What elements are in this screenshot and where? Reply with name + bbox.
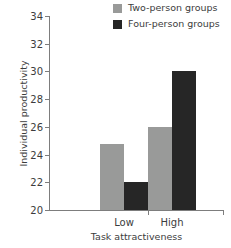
y-tick: 22 <box>49 182 50 183</box>
bar <box>100 144 124 211</box>
y-tick-mark <box>45 127 49 128</box>
legend-item-two-person: Two-person groups <box>113 1 231 15</box>
y-tick-label: 28 <box>30 94 43 105</box>
y-tick-mark <box>45 155 49 156</box>
y-tick-label: 34 <box>30 11 43 22</box>
y-axis-title: Individual productivity <box>18 44 29 184</box>
y-tick: 26 <box>49 127 50 128</box>
x-axis-title: Task attractiveness <box>49 231 224 242</box>
y-tick-label: 20 <box>30 205 43 216</box>
y-tick-label: 22 <box>30 177 43 188</box>
y-tick-label: 26 <box>30 121 43 132</box>
y-tick: 30 <box>49 71 50 72</box>
legend-label: Two-person groups <box>128 3 218 13</box>
y-tick-mark <box>45 210 49 211</box>
bar <box>172 71 196 210</box>
y-tick: 32 <box>49 44 50 45</box>
y-tick-label: 24 <box>30 149 43 160</box>
plot-area: 2022242628303234 LowHigh <box>49 16 224 211</box>
y-tick-label: 32 <box>30 38 43 49</box>
bar-chart: Two-person groups Four-person groups Ind… <box>0 0 231 248</box>
x-axis-line <box>49 210 224 211</box>
y-tick: 28 <box>49 99 50 100</box>
bar <box>124 182 148 210</box>
y-tick: 34 <box>49 16 50 17</box>
y-tick-mark <box>45 182 49 183</box>
x-tick-mark <box>148 211 149 215</box>
y-tick-mark <box>45 99 49 100</box>
y-tick: 20 <box>49 210 50 211</box>
x-tick-mark <box>223 211 224 215</box>
y-tick: 24 <box>49 155 50 156</box>
y-tick-mark <box>45 44 49 45</box>
x-tick-label: High <box>161 217 184 228</box>
y-tick-mark <box>45 71 49 72</box>
y-tick-label: 30 <box>30 66 43 77</box>
x-tick-label: Low <box>114 217 134 228</box>
legend-swatch-icon <box>113 4 122 13</box>
y-tick-mark <box>45 16 49 17</box>
bar <box>148 127 172 210</box>
